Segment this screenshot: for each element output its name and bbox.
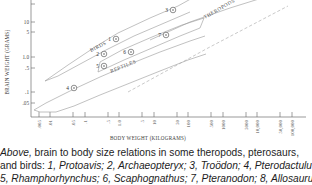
data-point-1: 1 [108,36,119,42]
data-point-label: 4 [66,85,69,91]
y-tick-label: .05 [23,100,30,106]
x-tick-label: .1 [83,120,88,124]
x-tick-labels: .005 .01 .05 .1 .5 1.0 5 10 50 100 500 1… [37,120,296,137]
data-point-6: 6 [123,49,134,55]
x-tick-label: 50,000 [278,120,284,134]
x-tick-marks [39,112,292,117]
pterosaurs-envelope [98,18,204,72]
group-label-theropods: THEROPODS [203,0,236,20]
caption-line-2: and birds: 1, Protoavis; 2, Archaeoptery… [0,159,312,172]
x-tick-label: 100,000 [290,120,296,137]
y-tick-marks [31,4,35,103]
x-tick-label: 1.0 [117,120,122,127]
caption-line-1: Above, brain to body size relations in s… [0,146,312,159]
data-point-2: 2 [96,51,107,57]
caption-line-2-plain: and birds: [0,160,48,171]
theropods-trend-line [128,6,288,92]
x-tick-label: 10 [152,120,157,126]
data-point-5: 5 [96,63,107,69]
data-point-label: 3 [165,7,168,13]
caption-line-2-species: 1, Protoavis; 2, Archaeopteryx; 3, Troöd… [48,160,312,171]
x-tick-label: 1000 [221,120,226,131]
y-axis-title: BRAIN WEIGHT (GRAMS) [4,30,11,95]
caption-line-3: 5, Rhamphorhynchus; 6, Scaphognathus; 7,… [0,172,312,185]
data-point-label: 2 [96,51,99,57]
y-tick-label: 5 [26,29,29,35]
x-tick-label: 100 [186,120,191,128]
x-tick-label: .005 [37,120,42,129]
figure-caption: Above, brain to body size relations in s… [0,146,312,185]
x-axis-title: BODY WEIGHT (KILOGRAMS) [110,135,186,142]
x-tick-label: 5000 [244,120,249,131]
caption-lead: Above, [0,147,32,158]
caption-line-3-species: 5, Rhamphorhynchus; 6, Scaphognathus; 7,… [0,173,312,184]
data-point-7: 7 [158,32,169,38]
x-tick-label: .01 [48,120,53,127]
data-point-label: 5 [96,63,99,69]
y-tick-label: .5 [25,65,29,71]
y-tick-labels: 10 5 1.0 .5 .1 .05 [23,19,30,106]
x-tick-label: 500 [209,120,214,128]
x-tick-label: 5 [140,120,145,123]
x-tick-label: .5 [106,120,111,124]
y-tick-label: 1.0 [23,54,30,60]
x-tick-label: 10,000 [255,120,261,134]
y-tick-label: 10 [24,19,30,25]
caption-line-1-rest: brain to body size relations in some the… [32,147,299,158]
x-tick-label: 50 [175,120,180,126]
x-tick-label: .05 [71,120,76,127]
data-point-3: 3 [165,7,176,13]
reptiles-envelope [34,36,206,112]
data-point-label: 7 [158,32,161,38]
data-point-label: 1 [108,36,111,42]
brain-body-scatter-figure: BRAIN WEIGHT (GRAMS) 10 5 1.0 .5 .1 .05 [0,0,312,148]
data-point-label: 6 [123,49,126,55]
y-tick-label: .1 [25,89,29,95]
